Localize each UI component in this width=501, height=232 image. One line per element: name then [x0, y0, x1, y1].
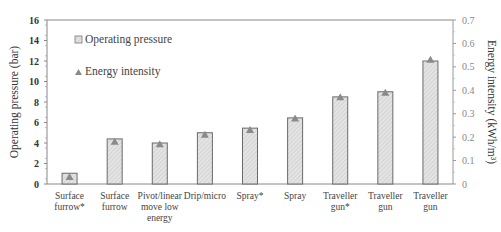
category-labels: Surfacefurrow*SurfacefurrowPivot/linearm…	[54, 191, 448, 223]
category-label: energy	[147, 213, 173, 223]
y-tick-label: 6	[34, 117, 39, 128]
category-label: Surface	[100, 191, 129, 201]
y-tick-label: 14	[29, 35, 39, 46]
hatched-square-icon	[75, 36, 82, 43]
pressure-bar	[288, 118, 303, 184]
legend: Operating pressure Energy intensity	[75, 33, 172, 78]
y-tick-label: 12	[29, 56, 39, 67]
y-axis-label: Operating pressure (bar)	[8, 46, 21, 159]
energy-triangle-marker	[426, 56, 434, 63]
pressure-bar	[152, 143, 167, 184]
y2-tick-label: 0.7	[462, 15, 475, 26]
category-label: Drip/micro	[184, 191, 226, 201]
category-label: Traveller	[368, 191, 403, 201]
pressure-bar	[378, 92, 393, 184]
y-tick-label: 10	[29, 76, 39, 87]
pressure-bar	[197, 133, 212, 184]
y2-tick-label: 0.6	[462, 38, 475, 49]
legend-label-energy: Energy intensity	[85, 65, 161, 78]
pressure-bar	[243, 128, 258, 184]
y2-tick-label: 0.2	[462, 132, 475, 143]
combo-chart: 024681012141600.10.20.30.40.50.60.7 Surf…	[0, 0, 501, 232]
category-label: Traveller	[413, 191, 448, 201]
category-label: Spray	[284, 191, 306, 201]
category-label: move low	[141, 202, 179, 212]
category-label: Traveller	[323, 191, 358, 201]
y2-tick-label: 0.5	[462, 61, 475, 72]
category-label: gun*	[331, 202, 350, 212]
y-tick-label: 2	[34, 158, 39, 169]
y-tick-label: 8	[34, 97, 39, 108]
legend-label-pressure: Operating pressure	[85, 33, 172, 46]
pressure-bar	[333, 97, 348, 184]
bars	[62, 61, 438, 184]
y-tick-label: 0	[34, 179, 39, 190]
category-label: furrow*	[54, 202, 85, 212]
category-label: Spray*	[237, 191, 264, 201]
category-label: Pivot/linear	[138, 191, 183, 201]
category-label: Surface	[55, 191, 84, 201]
y2-tick-label: 0	[462, 179, 467, 190]
y-tick-label: 16	[29, 15, 39, 26]
y2-tick-label: 0.1	[462, 155, 475, 166]
category-label: gun	[423, 202, 438, 212]
triangle-icon	[75, 69, 82, 75]
y2-axis-label: Energy intensity (kWh/m³)	[485, 40, 498, 164]
pressure-bar	[107, 139, 122, 184]
category-label: gun	[378, 202, 393, 212]
category-label: furrow	[102, 202, 128, 212]
pressure-bar	[423, 61, 438, 184]
y2-tick-label: 0.3	[462, 108, 475, 119]
y-tick-label: 4	[34, 138, 39, 149]
y2-tick-label: 0.4	[462, 85, 475, 96]
